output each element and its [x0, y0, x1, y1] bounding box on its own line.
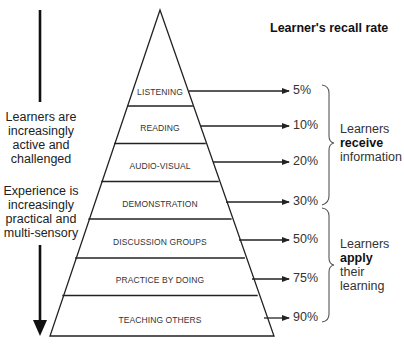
annotation-line: Experience is: [0, 184, 82, 198]
annotation-line: challenged: [0, 152, 82, 166]
annotation-line: multi-sensory: [0, 226, 82, 240]
group-line: learning: [340, 279, 389, 293]
recall-value-practice-by-doing: 75%: [293, 271, 318, 285]
recall-value-teaching-others: 90%: [293, 310, 318, 324]
layer-label-audio-visual: AUDIO-VISUAL: [129, 161, 190, 171]
recall-value-demonstration: 30%: [293, 194, 318, 208]
annotation-line: practical and: [0, 212, 82, 226]
annotation-line: increasingly: [0, 124, 82, 138]
pyramid-shape: [50, 10, 274, 336]
layer-label-practice-by-doing: PRACTICE BY DOING: [116, 275, 204, 285]
annotation-active-challenged: Learners are increasingly active and cha…: [0, 110, 82, 166]
annotation-line: active and: [0, 138, 82, 152]
group-line: information: [340, 150, 402, 164]
recall-value-audio-visual: 20%: [293, 154, 318, 168]
group-emphasis: receive: [340, 136, 383, 150]
diagram-graphics: [0, 0, 404, 348]
group-label-apply: Learners apply their learning: [340, 237, 389, 293]
annotation-practical-multisensory: Experience is increasingly practical and…: [0, 184, 82, 240]
annotation-line: increasingly: [0, 198, 82, 212]
group-emphasis: apply: [340, 251, 373, 265]
brace-apply-icon: [322, 208, 334, 322]
layer-label-discussion-groups: DISCUSSION GROUPS: [113, 237, 207, 247]
layer-label-reading: READING: [140, 123, 179, 133]
annotation-line: Learners are: [0, 110, 82, 124]
group-label-receive: Learners receive information: [340, 122, 402, 164]
recall-value-listening: 5%: [293, 83, 311, 97]
group-line: their: [340, 265, 389, 279]
layer-label-teaching-others: TEACHING OTHERS: [118, 315, 201, 325]
recall-value-discussion-groups: 50%: [293, 232, 318, 246]
group-line: Learners: [340, 237, 389, 251]
learning-pyramid-diagram: Learner's recall rate Learners are incre…: [0, 0, 404, 348]
down-arrow-icon: [33, 10, 47, 336]
layer-label-listening: LISTENING: [137, 87, 183, 97]
group-line: Learners: [340, 122, 402, 136]
layer-label-demonstration: DEMONSTRATION: [122, 199, 197, 209]
brace-receive-icon: [322, 85, 334, 205]
chart-title: Learner's recall rate: [270, 21, 388, 35]
recall-value-reading: 10%: [293, 118, 318, 132]
